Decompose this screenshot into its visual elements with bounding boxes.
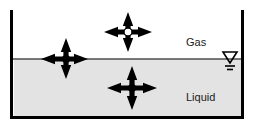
- diagram-canvas: Gas Liquid: [0, 0, 254, 128]
- container-bottom-wall: [10, 116, 244, 119]
- liquid-molecule-center: [128, 84, 136, 92]
- container-right-wall: [241, 10, 244, 119]
- gas-region-label: Gas: [186, 36, 207, 48]
- gas-molecule-center: [124, 28, 132, 36]
- surface-molecule-center: [62, 55, 70, 63]
- liquid-region-label: Liquid: [186, 91, 215, 103]
- liquid-gas-interface-diagram: Gas Liquid: [0, 0, 254, 128]
- container-left-wall: [10, 10, 13, 119]
